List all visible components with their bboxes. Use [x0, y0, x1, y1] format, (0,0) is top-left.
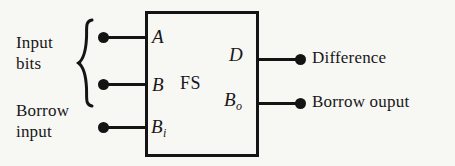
wire-input-b [104, 83, 147, 86]
full-subtractor-block-diagram: Input bits Borrow input A B Bi D Bo FS D… [0, 0, 455, 166]
borrow-input-label-line1: Borrow [16, 100, 69, 121]
pin-label-borrow-in-base: B [151, 116, 163, 137]
terminal-dot-input-a [98, 32, 109, 43]
pin-label-borrow-in-sub: i [163, 126, 166, 140]
block-name-label: FS [180, 74, 201, 92]
terminal-dot-difference [295, 54, 306, 65]
difference-label: Difference [312, 47, 386, 68]
terminal-dot-input-b [98, 79, 109, 90]
curly-brace-icon [76, 18, 96, 108]
wire-input-borrow [104, 126, 147, 129]
pin-label-a: A [152, 27, 164, 46]
pin-label-difference: D [229, 45, 243, 64]
pin-label-borrow-out: Bo [224, 90, 242, 112]
input-bits-label-line1: Input [16, 32, 53, 53]
pin-label-borrow-in: Bi [151, 117, 166, 139]
pin-label-borrow-out-base: B [224, 89, 236, 110]
input-bits-label: Input bits [16, 32, 53, 74]
wire-input-a [104, 36, 147, 39]
borrow-input-label-line2: input [16, 121, 69, 142]
pin-label-borrow-out-sub: o [236, 99, 242, 113]
input-bits-label-line2: bits [16, 53, 53, 74]
borrow-input-label: Borrow input [16, 100, 69, 142]
pin-label-b: B [152, 75, 164, 94]
terminal-dot-borrow-input [98, 122, 109, 133]
borrow-output-label: Borrow ouput [312, 91, 409, 112]
terminal-dot-borrow-output [295, 98, 306, 109]
